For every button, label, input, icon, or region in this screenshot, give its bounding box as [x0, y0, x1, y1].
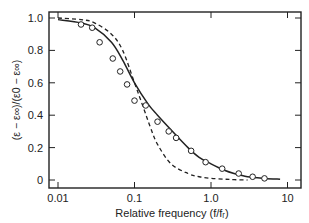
chart-svg: 00.20.40.60.81.00.010.11.010Relative fre… [0, 0, 309, 223]
data-point-marker [219, 166, 225, 172]
y-tick-label: 0.6 [28, 77, 43, 89]
data-point-marker [132, 98, 138, 104]
data-point-marker [262, 176, 268, 182]
y-tick-label: 0.2 [28, 142, 43, 154]
fit-solid-curve [58, 20, 280, 180]
data-point-marker [173, 135, 179, 141]
x-tick-label: 0.1 [127, 192, 142, 204]
y-axis-label: (ε − ε∞)/(ε0 − ε∞) [10, 60, 22, 140]
data-point-marker [166, 129, 172, 135]
x-axis-label: Relative frequency (f/fᵣ) [115, 207, 228, 219]
data-point-marker [250, 174, 256, 180]
x-tick-label: 1.0 [203, 192, 218, 204]
data-point-marker [203, 159, 209, 165]
data-point-marker [143, 103, 149, 109]
y-tick-label: 0 [37, 174, 43, 186]
data-point-marker [110, 56, 116, 62]
y-tick-label: 0.8 [28, 44, 43, 56]
relaxation-chart: 00.20.40.60.81.00.010.11.010Relative fre… [0, 0, 309, 223]
y-tick-label: 0.4 [28, 109, 43, 121]
data-point-marker [89, 25, 95, 31]
plot-frame [49, 12, 301, 188]
data-point-marker [97, 40, 103, 46]
data-point-marker [155, 119, 161, 125]
data-point-marker [188, 148, 194, 154]
data-point-marker [78, 22, 84, 28]
debye-dashed-curve [58, 18, 247, 180]
data-point-marker [117, 69, 123, 75]
x-tick-label: 0.01 [47, 192, 68, 204]
x-tick-label: 10 [281, 192, 293, 204]
data-point-marker [124, 82, 130, 88]
data-point-marker [236, 171, 242, 177]
y-tick-label: 1.0 [28, 12, 43, 24]
